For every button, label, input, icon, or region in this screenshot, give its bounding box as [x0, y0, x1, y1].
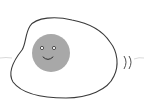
steam-line-right [134, 58, 144, 59]
fried-egg-illustration [0, 0, 144, 106]
steam-line-left [0, 58, 12, 59]
eye-left-icon [40, 46, 43, 49]
yolk [32, 34, 70, 72]
eye-right-icon [52, 46, 55, 49]
motion-mark-2 [129, 56, 131, 69]
motion-mark-1 [124, 56, 126, 69]
